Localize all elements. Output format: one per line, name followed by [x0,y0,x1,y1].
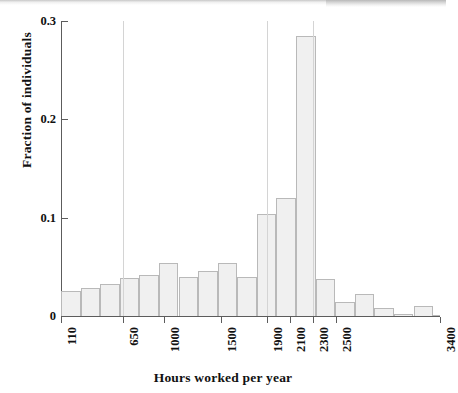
x-axis-tick-label: 2300 [318,327,331,352]
histogram-bar [335,302,355,316]
x-axis-tick-label: 3400 [445,327,458,352]
histogram-bar [198,271,218,316]
histogram-bar [139,275,159,316]
vertical-rule [313,21,314,316]
plot-area: 00.10.20.3 11065010001500190021002300250… [61,18,440,320]
histogram-bar [276,198,296,316]
y-axis-tick [62,218,68,219]
y-axis-tick-label: 0.1 [40,211,56,224]
y-axis-title: Fraction of individuals [20,32,34,168]
histogram-bar [414,306,434,316]
x-axis-tick-label: 2100 [295,327,308,352]
histogram-bar [237,277,257,316]
y-axis-tick-label: 0.2 [40,113,56,126]
vertical-rule [123,21,124,316]
y-axis-tick [62,119,68,120]
histogram-bar [100,284,120,316]
x-axis-tick [221,317,222,323]
x-axis-tick [123,317,124,323]
x-axis-line [61,316,440,317]
vertical-rule [267,21,268,316]
y-axis-tick-label: 0.3 [40,15,56,28]
histogram-bar [316,279,336,316]
x-axis-tick-label: 110 [66,327,79,345]
histogram-bar [218,263,238,316]
x-axis-tick-label: 650 [128,327,141,346]
y-axis-line [61,21,62,316]
histogram-bar [374,308,394,316]
y-axis-tick [62,316,68,317]
x-axis-tick [290,317,291,323]
x-axis-tick-label: 1500 [226,327,239,352]
x-axis-tick [440,317,441,323]
histogram-bar [159,263,179,316]
x-axis-tick [313,317,314,323]
x-axis-tick [61,317,62,323]
x-axis-title: Hours worked per year [0,370,446,386]
x-axis-tick-label: 1000 [169,327,182,352]
y-axis-tick [62,21,68,22]
histogram-bar [61,291,81,316]
x-axis-tick [164,317,165,323]
x-axis-tick-label: 2500 [341,327,354,352]
histogram-bar [355,294,375,316]
histogram-bar [179,277,199,316]
x-axis-tick [267,317,268,323]
scan-page-edge-right [326,0,446,7]
histogram-bar [394,314,414,316]
histogram-bar [433,315,440,316]
histogram-bar [81,288,101,316]
x-axis-tick [336,317,337,323]
y-axis-tick-label: 0 [50,310,56,323]
x-axis-tick-label: 1900 [272,327,285,352]
